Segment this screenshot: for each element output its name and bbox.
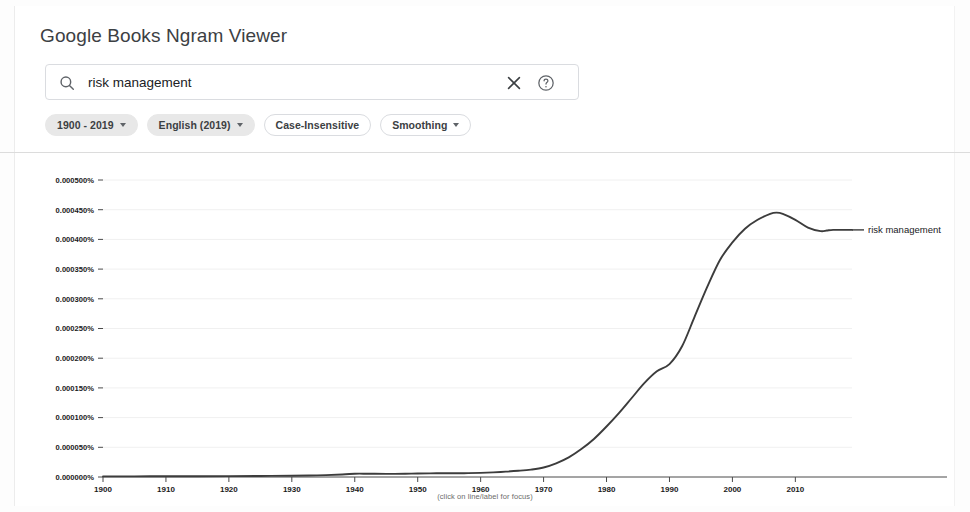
search-icon	[58, 74, 76, 92]
chip-corpus-label: English (2019)	[159, 119, 231, 131]
y-axis-tick-label: 0.000150%	[56, 384, 95, 393]
chip-date-range[interactable]: 1900 - 2019	[45, 114, 138, 136]
chip-smoothing[interactable]: Smoothing	[380, 114, 471, 136]
series-line[interactable]	[103, 213, 852, 477]
y-axis-tick-label: 0.000250%	[56, 324, 95, 333]
y-axis-tick-label: 0.000400%	[56, 235, 95, 244]
y-axis-tick-label: 0.000100%	[56, 413, 95, 422]
chip-date-range-label: 1900 - 2019	[57, 119, 114, 131]
ngram-chart-svg[interactable]: 0.000000%0.000050%0.000100%0.000150%0.00…	[0, 155, 970, 512]
page-background: Google Books Ngram Viewer 1900 -	[0, 0, 970, 512]
help-circle-icon[interactable]	[536, 73, 556, 93]
chip-smoothing-label: Smoothing	[392, 119, 447, 131]
close-icon[interactable]	[504, 73, 524, 93]
chevron-down-icon	[120, 123, 126, 127]
chip-case-insensitive-label: Case-Insensitive	[276, 119, 360, 131]
ngram-chart[interactable]: 0.000000%0.000050%0.000100%0.000150%0.00…	[0, 155, 970, 512]
chip-case-insensitive[interactable]: Case-Insensitive	[264, 114, 372, 136]
chevron-down-icon	[453, 123, 459, 127]
y-axis-tick-label: 0.000200%	[56, 354, 95, 363]
y-axis-tick-label: 0.000500%	[56, 176, 95, 185]
page-title: Google Books Ngram Viewer	[40, 25, 287, 47]
y-axis-tick-label: 0.000000%	[56, 473, 95, 482]
y-axis-tick-label: 0.000300%	[56, 295, 95, 304]
search-input[interactable]	[88, 65, 528, 99]
y-axis-tick-label: 0.000450%	[56, 206, 95, 215]
y-axis-tick-label: 0.000350%	[56, 265, 95, 274]
chart-hint: (click on line/label for focus)	[0, 492, 970, 501]
series-label[interactable]: risk management	[868, 224, 941, 235]
chip-corpus[interactable]: English (2019)	[147, 114, 255, 136]
chevron-down-icon	[237, 123, 243, 127]
y-axis-tick-label: 0.000050%	[56, 443, 95, 452]
search-bar[interactable]	[45, 64, 579, 100]
filter-chips: 1900 - 2019 English (2019) Case-Insensit…	[45, 114, 471, 136]
header-divider	[0, 152, 970, 153]
